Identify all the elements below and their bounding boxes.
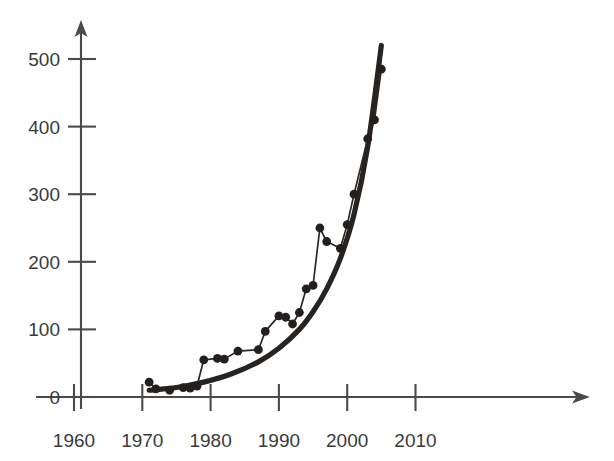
data-point-marker [234,347,243,356]
y-tick-label: 100 [28,319,60,340]
data-point-marker [288,320,297,329]
data-point-marker [261,327,270,336]
y-tick-label: 400 [28,117,60,138]
y-tick-label: 300 [28,184,60,205]
data-point-marker [193,382,202,391]
data-point-marker [199,355,208,364]
data-point-marker [363,134,372,143]
x-tick-label: 1980 [189,430,231,451]
data-point-marker [315,224,324,233]
data-point-marker [370,115,379,124]
x-tick-label: 2000 [326,430,368,451]
data-point-marker [309,281,318,290]
y-tick-label: 0 [49,387,60,408]
data-series-line [149,69,381,390]
x-tick-label: 1970 [121,430,163,451]
data-point-marker [343,220,352,229]
data-point-marker [281,313,290,322]
x-tick-label: 2010 [394,430,436,451]
y-tick-label: 200 [28,252,60,273]
x-axis-tick-labels: 196019701980199020002010 [53,430,437,451]
y-axis-tick-labels: 0100200300400500 [28,49,60,408]
chart-container: 0100200300400500 19601970198019902000201… [0,0,614,461]
data-point-marker [220,355,229,364]
growth-line-chart: 0100200300400500 19601970198019902000201… [0,0,614,461]
data-point-marker [336,244,345,253]
data-point-marker [322,237,331,246]
y-tick-label: 500 [28,49,60,70]
x-tick-label: 1960 [53,430,95,451]
data-point-marker [145,378,154,387]
data-point-marker [295,308,304,317]
data-point-marker [152,384,161,393]
data-point-marker [254,345,263,354]
data-point-marker [350,190,359,199]
data-point-marker [165,386,174,395]
axes-group [36,20,590,409]
exponential-trend-curve [149,45,381,390]
data-point-marker [377,65,386,74]
x-tick-label: 1990 [258,430,300,451]
